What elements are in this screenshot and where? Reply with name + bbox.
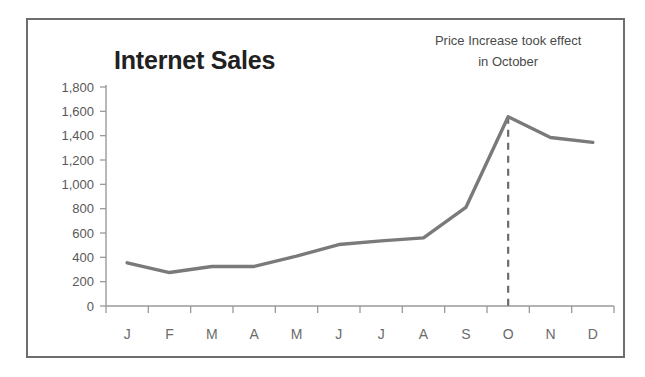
y-tick-label: 800	[72, 201, 94, 216]
annotation-line: Price Increase took effect	[435, 33, 582, 48]
x-axis-tick-labels: JFMAMJJASOND	[124, 326, 598, 342]
x-tick-label: J	[124, 326, 131, 342]
x-tick-label: J	[378, 326, 385, 342]
y-axis-tick-labels: 02004006008001,0001,2001,4001,6001,800	[61, 80, 94, 314]
x-tick-label: J	[335, 326, 342, 342]
line-chart-plot: 02004006008001,0001,2001,4001,6001,800 J…	[28, 20, 627, 360]
x-tick-label: S	[461, 326, 470, 342]
y-tick-label: 1,200	[61, 153, 94, 168]
y-tick-label: 400	[72, 250, 94, 265]
y-tick-label: 1,000	[61, 177, 94, 192]
x-tick-label: D	[588, 326, 598, 342]
x-tick-label: N	[545, 326, 555, 342]
y-tick-label: 1,600	[61, 104, 94, 119]
x-tick-label: A	[249, 326, 259, 342]
x-axis-ticks	[106, 306, 614, 313]
y-tick-label: 1,800	[61, 80, 94, 95]
chart-frame: Internet Sales 02004006008001,0001,2001,…	[26, 18, 625, 358]
annotation-line: in October	[478, 54, 539, 69]
price-increase-annotation: Price Increase took effectin October	[435, 33, 582, 69]
x-tick-label: M	[206, 326, 218, 342]
y-tick-label: 600	[72, 226, 94, 241]
y-tick-label: 1,400	[61, 128, 94, 143]
x-tick-label: O	[503, 326, 514, 342]
y-tick-label: 0	[87, 299, 94, 314]
x-tick-label: M	[291, 326, 303, 342]
x-tick-label: A	[419, 326, 429, 342]
series-line-internet-sales	[127, 117, 593, 273]
x-tick-label: F	[165, 326, 174, 342]
y-axis-ticks	[100, 87, 106, 306]
y-tick-label: 200	[72, 274, 94, 289]
